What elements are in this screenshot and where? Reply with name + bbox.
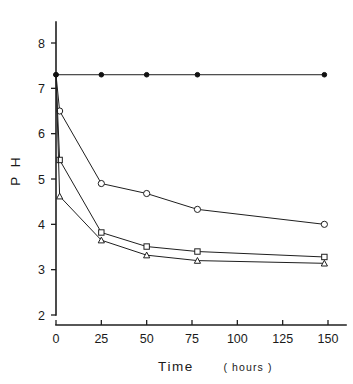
- data-point-filled-circle: [195, 72, 200, 77]
- data-point-open-square: [144, 244, 149, 249]
- y-axis-title: P H: [8, 154, 23, 185]
- y-tick-label: 7: [38, 82, 45, 96]
- y-tick-label: 5: [38, 173, 45, 187]
- data-point-filled-circle: [144, 72, 149, 77]
- data-point-open-circle: [98, 180, 104, 186]
- x-tick-label: 50: [140, 332, 154, 346]
- y-tick-label: 3: [38, 263, 45, 277]
- ph-vs-time-chart: 2345678 0255075100125150 Time ( hours ) …: [0, 0, 353, 384]
- y-tick-label: 8: [38, 37, 45, 51]
- data-point-open-circle: [194, 206, 200, 212]
- x-tick-label: 100: [227, 332, 248, 346]
- y-tick-label: 2: [38, 309, 45, 323]
- x-tick-label: 125: [272, 332, 293, 346]
- data-point-filled-circle: [54, 72, 59, 77]
- data-point-open-circle: [144, 190, 150, 196]
- data-point-open-square: [57, 157, 62, 162]
- y-tick-label: 4: [38, 218, 45, 232]
- data-point-open-square: [195, 249, 200, 254]
- x-axis-unit-label: ( hours ): [224, 361, 273, 373]
- x-axis-title: Time: [158, 359, 194, 374]
- data-point-open-square: [322, 254, 327, 259]
- y-tick-label: 6: [38, 127, 45, 141]
- data-point-open-circle: [321, 221, 327, 227]
- data-point-open-square: [99, 230, 104, 235]
- chart-background: [0, 0, 353, 384]
- x-tick-label: 75: [185, 332, 199, 346]
- x-tick-label: 0: [53, 332, 60, 346]
- x-tick-label: 150: [318, 332, 339, 346]
- chart-figure: 2345678 0255075100125150 Time ( hours ) …: [0, 0, 353, 384]
- data-point-filled-circle: [99, 72, 104, 77]
- x-tick-label: 25: [94, 332, 108, 346]
- data-point-filled-circle: [322, 72, 327, 77]
